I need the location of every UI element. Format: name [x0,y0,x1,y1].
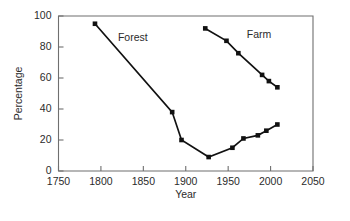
axis-box [59,16,314,171]
plot-frame [59,16,314,171]
data-point-marker [93,21,98,26]
series-label-farm: Farm [247,28,272,40]
x-tick-label: 1850 [132,175,156,187]
x-tick-label: 1800 [89,175,113,187]
data-point-marker [179,138,184,143]
data-point-marker [203,26,208,31]
y-tick-label: 20 [40,133,52,145]
series-line-forest [95,24,277,157]
y-axis-title: Percentage [12,66,24,120]
data-point-marker [236,51,241,56]
y-tick-label: 40 [40,102,52,114]
y-tick-label: 100 [34,9,52,21]
x-tick-label: 1950 [216,175,240,187]
data-point-marker [264,128,269,133]
data-point-marker [260,73,265,78]
data-point-marker [241,136,246,141]
series-forest: Forest [93,21,280,159]
series-farm: Farm [203,26,280,90]
data-point-marker [275,122,280,127]
x-axis-title: Year [175,188,197,200]
line-chart: 0204060801001750180018501900195020002050… [0,0,350,221]
x-tick-label: 1750 [47,175,71,187]
y-tick-label: 60 [40,71,52,83]
data-point-marker [206,155,211,160]
x-axis: 1750180018501900195020002050 [47,166,325,187]
chart-container: 0204060801001750180018501900195020002050… [0,0,350,221]
data-point-marker [275,85,280,90]
data-point-marker [230,145,235,150]
data-point-marker [224,39,229,44]
y-tick-label: 0 [46,164,52,176]
x-tick-label: 2050 [301,175,325,187]
data-point-marker [267,79,272,84]
data-point-marker [170,110,175,115]
x-tick-label: 1900 [174,175,198,187]
y-tick-label: 80 [40,40,52,52]
x-tick-label: 2000 [259,175,283,187]
series-label-forest: Forest [118,31,148,43]
data-point-marker [256,133,261,138]
y-axis: 020406080100 [34,9,64,176]
